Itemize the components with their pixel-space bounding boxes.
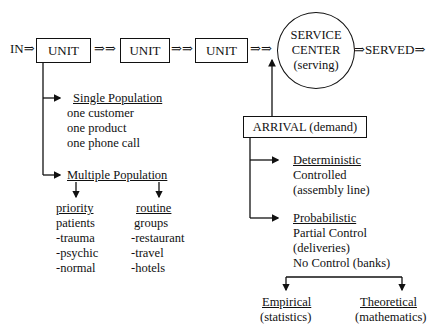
empirical-title: Empirical	[262, 295, 311, 309]
service-center-line1: SERVICE	[290, 28, 341, 43]
probabilistic-item: (deliveries)	[293, 241, 350, 255]
priority-item: patients	[56, 216, 95, 230]
arrival-box: ARRIVAL (demand)	[243, 116, 367, 138]
routine-item: -restaurant	[131, 231, 184, 245]
deterministic-item: (assembly line)	[293, 183, 370, 197]
service-center-line3: (serving)	[293, 58, 338, 73]
priority-item: -trauma	[56, 231, 95, 245]
routine-item: -travel	[131, 246, 164, 260]
service-center-line2: CENTER	[292, 43, 341, 58]
flow-connector-1: ⇒⇒	[94, 42, 116, 56]
priority-item: -normal	[56, 261, 96, 275]
deterministic-item: Controlled	[293, 168, 346, 182]
deterministic-title: Deterministic	[293, 153, 361, 167]
probabilistic-item: No Control (banks)	[293, 256, 390, 270]
served-label: ⇒SERVED⇒	[354, 43, 425, 57]
flow-connector-2: ⇒⇒	[171, 42, 193, 56]
single-population-title: Single Population	[73, 91, 162, 105]
flow-connector-3: ⇒⇒	[250, 42, 272, 56]
multiple-population-title: Multiple Population	[67, 168, 167, 182]
priority-title: priority	[56, 201, 94, 215]
routine-item: groups	[134, 216, 168, 230]
empirical-subtitle: (statistics)	[260, 310, 311, 324]
priority-item: -psychic	[56, 246, 98, 260]
single-item: one phone call	[67, 136, 140, 150]
unit-box-3: UNIT	[195, 38, 248, 63]
unit-box-2: UNIT	[120, 38, 170, 63]
single-item: one customer	[67, 106, 134, 120]
probabilistic-item: Partial Control	[293, 226, 367, 240]
single-item: one product	[67, 121, 126, 135]
routine-title: routine	[136, 201, 171, 215]
service-center-circle: SERVICE CENTER (serving)	[277, 12, 355, 89]
theoretical-title: Theoretical	[360, 295, 417, 309]
theoretical-subtitle: (mathematics)	[355, 310, 427, 324]
routine-item: -hotels	[131, 261, 165, 275]
input-label: IN⇒	[10, 42, 35, 56]
probabilistic-title: Probabilistic	[293, 211, 356, 225]
unit-box-1: UNIT	[36, 38, 91, 63]
